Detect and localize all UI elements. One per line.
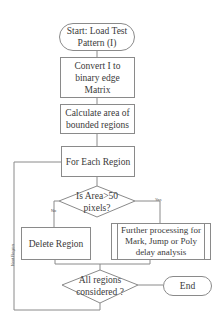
delete-label: Delete Region — [29, 238, 84, 250]
further-label: Further processing for Mark, Jump or Pol… — [120, 225, 202, 258]
convert-process-box: Convert I to binary edge Matrix — [60, 57, 135, 98]
next-region-edge-label: Next Region — [10, 244, 15, 266]
end-terminator: End — [163, 276, 212, 296]
convert-label: Convert I to binary edge Matrix — [67, 60, 128, 96]
area-check-decision-label: Is Area>50 pixels? — [66, 190, 128, 214]
delete-region-box: Delete Region — [21, 227, 91, 260]
start-label: Start: Load Test Pattern (I) — [60, 25, 134, 49]
no-edge-label: No — [51, 208, 56, 213]
further-processing-box: Further processing for Mark, Jump or Pol… — [111, 223, 211, 260]
yes-edge-label: Yes — [155, 197, 162, 202]
for-each-region-box: For Each Region — [61, 146, 135, 177]
for-each-label: For Each Region — [66, 156, 130, 168]
calculate-label: Calculate area of bounded regions — [64, 107, 131, 131]
end-label: End — [180, 280, 195, 292]
calculate-process-box: Calculate area of bounded regions — [60, 104, 135, 134]
all-considered-decision-label: All regions considered ? — [70, 274, 130, 298]
start-terminator: Start: Load Test Pattern (I) — [59, 23, 135, 51]
